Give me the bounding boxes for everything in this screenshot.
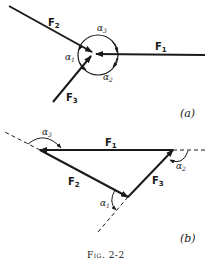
label-alpha2-b: α2 xyxy=(176,161,186,172)
label-alpha3-a: α3 xyxy=(97,23,107,34)
panel-a: F1 F2 F3 α1 α2 α3 (a) xyxy=(9,6,205,120)
force-f3-vector-b xyxy=(128,150,173,197)
label-alpha3-b: α3 xyxy=(42,127,52,138)
force-f1-vector xyxy=(96,54,205,55)
label-f1-a: F1 xyxy=(155,41,167,54)
f2-extension-dashed xyxy=(3,131,40,150)
label-f2-b: F2 xyxy=(68,176,80,189)
label-alpha2-a: α2 xyxy=(103,72,113,83)
alpha1-arc-b xyxy=(112,190,116,210)
label-f3-b: F3 xyxy=(152,175,164,188)
label-alpha1-b: α1 xyxy=(100,198,110,209)
panel-b: F1 F2 F3 α1 α2 α3 (b) xyxy=(3,127,206,245)
label-f1-b: F1 xyxy=(105,137,117,150)
panel-b-label: (b) xyxy=(180,232,196,245)
panel-a-label: (a) xyxy=(180,107,195,120)
force-f2-vector xyxy=(9,6,92,52)
figure-2-2: F1 F2 F3 α1 α2 α3 (a) F1 F2 F3 α1 α2 α3 … xyxy=(0,0,213,265)
label-alpha1-a: α1 xyxy=(65,52,75,63)
label-f3-a: F3 xyxy=(66,92,78,105)
figure-caption: Fig. 2-2 xyxy=(87,250,125,260)
